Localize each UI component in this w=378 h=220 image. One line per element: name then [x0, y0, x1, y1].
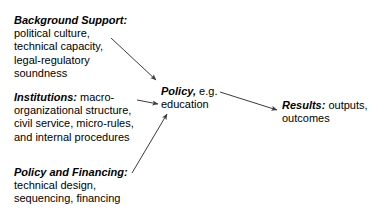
block-institutions-line-2: civil service, micro-rules, — [14, 117, 134, 130]
block-policy-and-financing-line-2: sequencing, financing — [14, 192, 128, 205]
block-institutions: Institutions: macro- organizational stru… — [14, 91, 134, 144]
arrow-institutions-to-policy — [137, 100, 158, 104]
block-results-line-1: outcomes — [282, 112, 368, 125]
block-policy-and-financing: Policy and Financing: technical design, … — [14, 166, 128, 206]
block-background-support-line-2: technical capacity, — [14, 40, 127, 53]
block-policy-lead: Policy, — [161, 85, 196, 97]
diagram-canvas: Background Support: political culture, t… — [0, 0, 378, 220]
block-background-support-line-1: political culture, — [14, 27, 127, 40]
block-policy-heading: Policy, e.g. — [161, 85, 217, 98]
block-policy: Policy, e.g. education — [161, 85, 217, 111]
block-institutions-line-1: organizational structure, — [14, 104, 134, 117]
block-background-support: Background Support: political culture, t… — [14, 14, 127, 80]
block-policy-and-financing-heading: Policy and Financing: — [14, 166, 128, 179]
block-results-lead: Results: — [282, 99, 325, 111]
block-policy-and-financing-lead: Policy and Financing: — [14, 166, 128, 178]
block-institutions-lead-rest: macro- — [77, 91, 114, 103]
arrow-financing-to-policy — [132, 114, 167, 173]
block-results-heading: Results: outputs, — [282, 99, 368, 112]
block-policy-lead-rest: e.g. — [196, 85, 217, 97]
block-policy-and-financing-line-1: technical design, — [14, 179, 128, 192]
block-policy-line-1: education — [161, 98, 217, 111]
arrow-policy-to-results — [220, 92, 277, 110]
block-results: Results: outputs, outcomes — [282, 99, 368, 125]
block-background-support-heading: Background Support: — [14, 14, 127, 27]
block-background-support-lead: Background Support: — [14, 14, 127, 26]
block-institutions-line-3: and internal procedures — [14, 131, 134, 144]
block-institutions-heading: Institutions: macro- — [14, 91, 134, 104]
block-background-support-line-3: legal-regulatory — [14, 54, 127, 67]
block-background-support-line-4: soundness — [14, 67, 127, 80]
block-results-lead-rest: outputs, — [325, 99, 367, 111]
block-institutions-lead: Institutions: — [14, 91, 77, 103]
